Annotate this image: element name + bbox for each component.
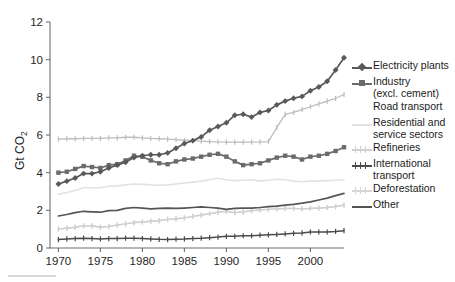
data-point-marker xyxy=(325,152,329,156)
legend-item[interactable]: Road transport xyxy=(352,101,455,115)
y-tick-label: 4 xyxy=(37,167,44,179)
data-point-marker xyxy=(317,154,321,158)
data-point-marker xyxy=(199,154,203,158)
data-point-marker xyxy=(282,98,288,104)
data-point-marker xyxy=(291,95,297,101)
data-point-marker xyxy=(300,157,304,161)
data-point-marker xyxy=(190,138,196,144)
data-point-marker xyxy=(72,175,78,181)
square-line-key xyxy=(352,77,372,90)
legend-item[interactable]: Deforestation xyxy=(352,183,455,197)
plus-pale-key xyxy=(352,184,372,197)
data-point-marker xyxy=(215,124,221,130)
y-tick-label: 10 xyxy=(30,54,43,66)
data-point-marker xyxy=(90,165,94,169)
data-point-marker xyxy=(249,162,253,166)
scan-artifact-line xyxy=(8,275,56,277)
y-axis-label: Gt CO2 xyxy=(13,131,29,170)
x-tick-label: 1990 xyxy=(214,255,240,267)
chart-legend: Electricity plantsIndustry (excl. cement… xyxy=(352,60,455,215)
legend-item-label: Deforestation xyxy=(372,183,435,195)
data-point-marker xyxy=(291,154,295,158)
data-point-marker xyxy=(89,171,95,177)
y-tick-label: 0 xyxy=(37,242,43,254)
y-tick-label: 2 xyxy=(37,204,43,216)
data-point-marker xyxy=(56,170,60,174)
y-tick-label: 8 xyxy=(37,91,43,103)
plus-light-key xyxy=(352,143,372,156)
legend-item-label: International transport xyxy=(372,158,431,181)
data-point-marker xyxy=(174,159,178,163)
data-point-marker xyxy=(182,157,186,161)
data-point-marker xyxy=(149,158,153,162)
data-point-marker xyxy=(55,181,61,187)
series-line xyxy=(58,58,344,184)
tick-label-layer: 0246810121970197519801985199019952000 xyxy=(30,16,323,267)
data-point-marker xyxy=(241,163,245,167)
solid-dark-key xyxy=(352,200,372,213)
data-point-marker xyxy=(258,161,262,165)
data-point-marker xyxy=(73,167,77,171)
light-line-key xyxy=(352,118,372,131)
data-point-marker xyxy=(65,170,69,174)
diamond-line-key xyxy=(352,61,372,74)
x-tick-label: 1985 xyxy=(172,255,198,267)
data-point-marker xyxy=(207,153,211,157)
data-point-marker xyxy=(157,161,161,165)
data-point-marker xyxy=(165,162,169,166)
legend-item[interactable]: International transport xyxy=(352,158,455,181)
series-layer xyxy=(55,55,347,242)
data-point-marker xyxy=(64,178,70,184)
legend-item-label: Residential and service sectors xyxy=(372,117,445,140)
data-point-marker xyxy=(148,152,154,158)
x-tick-label: 1970 xyxy=(46,255,72,267)
legend-item-label: Industry (excl. cement) xyxy=(372,76,439,99)
x-tick-label: 2000 xyxy=(298,255,324,267)
series-4 xyxy=(58,178,344,194)
data-point-marker xyxy=(342,145,346,149)
legend-item-label: Other xyxy=(372,199,399,211)
data-point-marker xyxy=(308,154,312,158)
legend-item[interactable]: Residential and service sectors xyxy=(352,117,455,140)
blank-key xyxy=(352,102,372,115)
data-point-marker xyxy=(333,149,337,153)
plus-dark-key xyxy=(352,159,372,172)
legend-item[interactable]: Other xyxy=(352,199,455,213)
data-point-marker xyxy=(81,164,85,168)
data-point-marker xyxy=(266,158,270,162)
data-point-marker xyxy=(275,155,279,159)
data-point-marker xyxy=(233,159,237,163)
data-point-marker xyxy=(240,111,246,117)
axis-layer xyxy=(46,22,344,252)
legend-item[interactable]: Electricity plants xyxy=(352,60,455,74)
data-point-marker xyxy=(216,152,220,156)
x-tick-label: 1980 xyxy=(130,255,156,267)
data-point-marker xyxy=(283,154,287,158)
y-tick-label: 6 xyxy=(37,129,43,141)
data-point-marker xyxy=(81,171,87,177)
legend-item[interactable]: Industry (excl. cement) xyxy=(352,76,455,99)
legend-item[interactable]: Refineries xyxy=(352,142,455,156)
legend-item-label: Electricity plants xyxy=(372,60,449,72)
legend-item-label: Road transport xyxy=(372,101,442,113)
chart-figure: 0246810121970197519801985199019952000 Gt… xyxy=(0,0,455,282)
legend-item-label: Refineries xyxy=(372,142,420,154)
series-6 xyxy=(58,228,344,242)
x-tick-label: 1975 xyxy=(88,255,114,267)
data-point-marker xyxy=(156,152,162,158)
y-tick-label: 12 xyxy=(30,16,43,28)
series-line xyxy=(58,178,344,194)
data-point-marker xyxy=(191,156,195,160)
x-tick-label: 1995 xyxy=(256,255,282,267)
data-point-marker xyxy=(224,154,228,158)
